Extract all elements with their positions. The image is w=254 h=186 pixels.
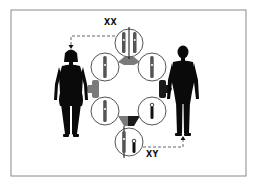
- diagram: XX XY: [0, 0, 254, 186]
- xy-label: XY: [146, 150, 159, 159]
- sperm-cell-x: [138, 53, 166, 81]
- egg-cell-upper: [91, 53, 119, 81]
- diagram-canvas: [0, 0, 254, 186]
- egg-cell-lower: [91, 97, 119, 125]
- sperm-cell-y: [138, 97, 166, 125]
- xx-label: XX: [104, 18, 117, 27]
